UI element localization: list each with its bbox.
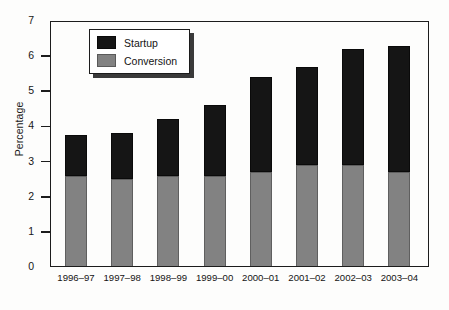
black-swatch-icon [97,36,116,49]
y-axis-tick-label: 4 [8,119,34,131]
legend-label-conversion: Conversion [124,55,177,67]
y-axis-tick [41,161,50,163]
y-axis-tick [41,196,50,198]
chart-legend: Startup Conversion [89,29,190,74]
y-axis-tick [41,231,50,233]
y-axis-tick [41,90,50,92]
legend-item-conversion: Conversion [97,53,177,68]
y-axis-tick-label: 2 [8,190,34,202]
y-axis-tick [41,126,50,128]
y-axis-tick [41,55,50,57]
y-axis-tick-label: 5 [8,84,34,96]
stacked-bar-chart: Percentage 01234567 1996–971997–981998–9… [0,0,449,310]
y-axis-tick-label: 3 [8,155,34,167]
y-axis-tick-label: 0 [8,260,34,272]
y-axis-tick-label: 1 [8,225,34,237]
legend-item-startup: Startup [97,35,158,50]
y-axis-tick-label: 6 [8,49,34,61]
legend-label-startup: Startup [124,37,158,49]
x-axis-tick-label: 2003–04 [369,272,429,283]
y-axis-tick-label: 7 [8,14,34,26]
gray-swatch-icon [97,54,116,67]
